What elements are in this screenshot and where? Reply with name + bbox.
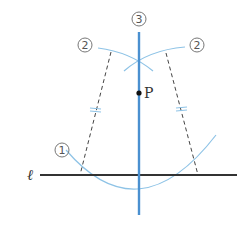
line-l-label: ℓ bbox=[27, 166, 33, 184]
step-2-left-marker: ② 2 bbox=[78, 38, 92, 52]
dashed-radius-right bbox=[166, 53, 198, 175]
point-p-label: P bbox=[144, 85, 153, 101]
step-1-digit: 1 bbox=[59, 144, 66, 157]
arc-step-2-right bbox=[124, 47, 185, 71]
point-p-dot bbox=[136, 90, 141, 95]
arc-step-2-left bbox=[98, 48, 153, 71]
step-2-right-digit: 2 bbox=[194, 39, 201, 52]
geometry-construction-diagram: P ℓ ③ 3 ② 2 ② 2 ① 1 bbox=[0, 0, 251, 226]
equal-tick-left bbox=[90, 108, 101, 112]
equal-tick-right bbox=[176, 107, 187, 111]
step-3-marker: ③ 3 bbox=[132, 12, 146, 26]
step-3-digit: 3 bbox=[136, 13, 143, 26]
step-2-right-marker: ② 2 bbox=[190, 38, 204, 52]
step-1-marker: ① 1 bbox=[55, 143, 69, 157]
step-2-left-digit: 2 bbox=[82, 39, 89, 52]
dashed-radius-left bbox=[80, 52, 111, 175]
